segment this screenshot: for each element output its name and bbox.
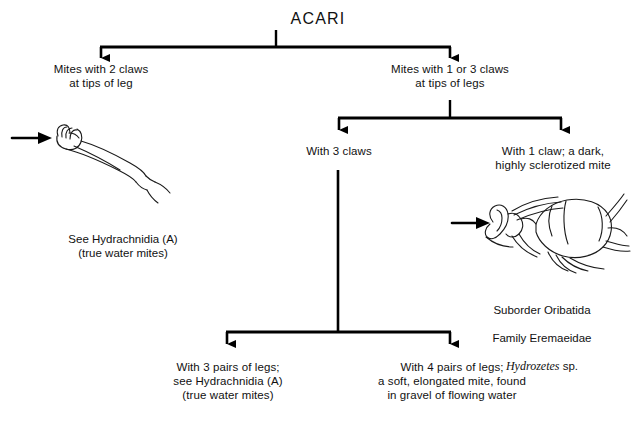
node-mites-one-or-three-claws: Mites with 1 or 3 claws at tips of legs [370, 62, 530, 90]
caption-right-rank: sp. [560, 360, 579, 372]
mite-leg-tip-with-claws-illustration [12, 125, 170, 203]
caption-right-genus: Hydrozetes [506, 359, 560, 373]
caption-right-line1: Suborder Oribatida [493, 304, 590, 316]
pointer-arrow-right-icon [452, 217, 490, 229]
node-mites-two-claws: Mites with 2 claws at tips of leg [21, 62, 181, 90]
node-with-one-claw: With 1 claw; a dark, highly sclerotized … [471, 144, 635, 172]
caption-right-line2: Family Eremaeidae [492, 332, 591, 344]
pointer-arrow-left-icon [12, 132, 52, 144]
caption-right-specimen: Suborder Oribatida Family Eremaeidae Hyd… [454, 289, 630, 373]
dichotomous-key-figure: ACARI [0, 0, 636, 425]
node-with-three-claws: With 3 claws [288, 144, 390, 158]
page-title: ACARI [218, 10, 418, 28]
node-three-pairs-of-legs: With 3 pairs of legs; see Hydrachnidia (… [142, 360, 314, 402]
caption-left-specimen: See Hydrachnidia (A) (true water mites) [28, 232, 218, 260]
oribatid-mite-single-claw-illustration [452, 194, 630, 273]
